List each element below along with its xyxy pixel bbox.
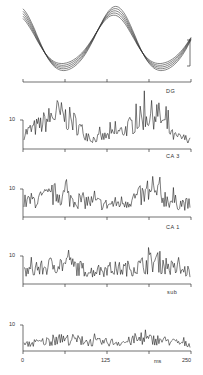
x-tick-label-250: 250 (182, 358, 191, 364)
panel-label-dg: DG (166, 89, 175, 95)
x-tick-label-125: 125 (101, 358, 110, 364)
histogram-line-ca1 (24, 248, 190, 278)
figure-canvas (0, 0, 203, 375)
x-tick-label-0: 0 (21, 358, 24, 364)
x-axis-unit: ms (154, 359, 161, 365)
panel-label-ca3: CA 3 (166, 154, 180, 160)
y-tick-label-dg: 10 (9, 117, 15, 123)
eeg-sweep (23, 9, 191, 69)
histogram-line-ca3 (24, 176, 190, 210)
panel-label-ca1: CA 1 (166, 225, 180, 231)
histogram-line-sub (24, 330, 190, 348)
y-tick-label-ca3: 10 (9, 186, 15, 192)
y-tick-label-sub: 10 (9, 322, 15, 328)
histogram-line-dg (24, 91, 190, 143)
field-potential-traces (23, 6, 191, 70)
panel-label-sub: sub (167, 290, 177, 296)
eeg-sweep (23, 15, 191, 63)
y-tick-label-ca1: 10 (9, 253, 15, 259)
